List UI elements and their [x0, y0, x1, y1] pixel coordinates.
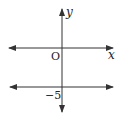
coordinate-diagram: y x O −5	[0, 0, 121, 117]
y-axis-label: y	[65, 5, 73, 19]
y-intercept-label: −5	[45, 89, 61, 102]
origin-label: O	[51, 50, 60, 63]
x-axis-label: x	[108, 48, 115, 62]
